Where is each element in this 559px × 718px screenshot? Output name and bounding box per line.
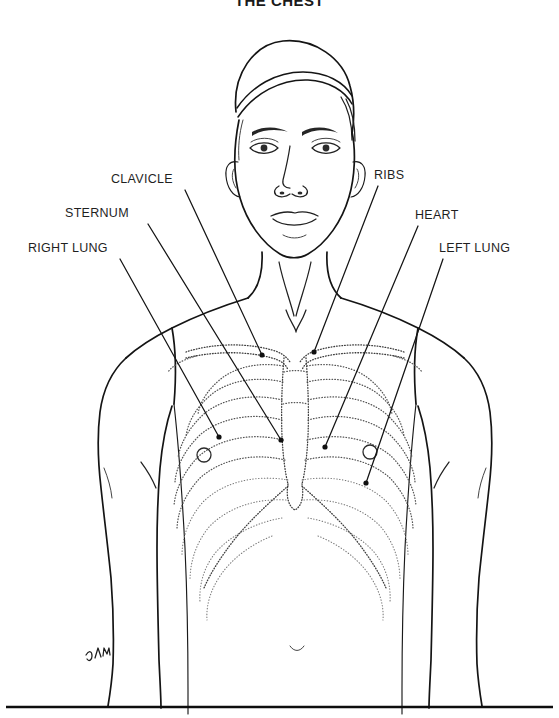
torso-side-left	[174, 404, 188, 714]
nostril-dot-left	[280, 192, 285, 195]
rib-left-3	[178, 397, 282, 458]
pupil-right	[323, 145, 330, 152]
neck-left-edge	[248, 252, 262, 298]
leader-line-left-lung	[366, 259, 443, 483]
nipple-left	[197, 448, 211, 462]
hair-part-line	[237, 72, 352, 108]
mouth-upper-lip	[271, 212, 318, 216]
mouth-lower-lip	[273, 219, 316, 225]
arm-outer-left	[98, 358, 126, 706]
elbow-crease-right	[434, 462, 449, 488]
clavicle-right-bone-lower	[302, 353, 404, 370]
eyebrow-right	[302, 128, 338, 136]
leader-dot-heart	[322, 444, 327, 449]
label-clavicle: CLAVICLE	[111, 172, 173, 186]
chin-crease	[283, 235, 306, 238]
leader-line-sternum	[148, 224, 281, 440]
diagram-page: THE CHEST	[0, 0, 559, 718]
leader-dot-sternum	[278, 437, 283, 442]
arm-muscle-right	[478, 468, 486, 498]
neck-muscle-right	[296, 262, 311, 316]
eyebrow-left	[252, 128, 288, 137]
leader-dot-clavicle	[259, 352, 264, 357]
rib-right-7	[302, 478, 408, 555]
leader-line-clavicle	[185, 190, 262, 355]
leader-line-ribs	[314, 186, 378, 352]
eyelid-right	[312, 138, 340, 142]
sternum-group	[282, 358, 309, 510]
label-heart: HEART	[415, 208, 459, 222]
clavicle-group	[186, 345, 404, 370]
leader-dot-right-lung	[216, 434, 221, 439]
rib-left-7	[182, 478, 288, 555]
shoulder-slope-left	[126, 298, 248, 358]
hair-side-strand-a	[341, 97, 352, 140]
signature-stroke-2	[95, 648, 101, 658]
arm-muscle-left	[104, 468, 112, 498]
rib-right-8	[304, 500, 400, 580]
navel	[290, 646, 304, 651]
nose-bridge	[283, 146, 290, 188]
hair-group	[236, 41, 355, 160]
rib-left-2	[186, 379, 283, 436]
eyelid-left	[251, 138, 278, 142]
clavicle-left-bone	[186, 345, 290, 362]
leader-dot-left-lung	[363, 480, 368, 485]
rib-left-6	[177, 457, 285, 530]
rib-left-5	[174, 437, 283, 506]
artist-signature	[86, 648, 110, 660]
head-group	[226, 120, 365, 258]
rib-right-2	[307, 379, 404, 436]
suprasternal-notch	[286, 310, 306, 332]
neck-muscle-left	[279, 262, 294, 316]
xiphoid-process	[287, 484, 302, 510]
hair-left-edge	[239, 120, 243, 160]
hair-sweep	[238, 80, 352, 117]
sternum-left-border	[282, 358, 288, 484]
rib-left-4	[175, 416, 282, 482]
nipples-group	[197, 445, 377, 462]
sternum-right-border	[302, 358, 308, 484]
signature-stroke-1	[86, 652, 92, 661]
signature-stroke-3	[103, 648, 110, 656]
label-left-lung: LEFT LUNG	[439, 241, 510, 255]
nostril-dot-right	[298, 192, 303, 195]
label-sternum: STERNUM	[65, 206, 129, 220]
leader-dot-ribs	[311, 349, 316, 354]
arms-torso-group	[98, 328, 492, 714]
sternum-body-joint	[283, 403, 308, 405]
torso-side-right	[402, 404, 416, 714]
anatomy-figure	[0, 0, 559, 718]
leader-lines-group	[120, 186, 443, 486]
neck-shoulders-group	[126, 252, 464, 358]
label-right-lung: RIGHT LUNG	[28, 241, 108, 255]
ear-right-inner	[355, 169, 359, 188]
label-ribs: RIBS	[374, 168, 404, 182]
shoulder-slope-right	[341, 298, 464, 358]
costal-margin-left	[204, 486, 288, 588]
nostril-right	[292, 186, 307, 197]
rib-left-8	[190, 500, 286, 580]
arm-inner-left	[157, 406, 172, 708]
pupil-left	[261, 145, 268, 152]
leader-line-heart	[325, 226, 418, 447]
costal-margin-right	[302, 486, 386, 588]
arm-outer-right	[464, 358, 492, 706]
rib-right-6	[305, 457, 413, 530]
elbow-crease-left	[141, 462, 156, 488]
rib-right-10	[318, 536, 383, 620]
acromion-right	[394, 356, 422, 372]
neck-right-edge	[327, 252, 341, 298]
arm-inner-right	[418, 406, 433, 708]
sternum-manubrium-joint	[284, 371, 307, 373]
rib-left-1	[198, 365, 283, 415]
rib-left-10	[207, 536, 272, 620]
